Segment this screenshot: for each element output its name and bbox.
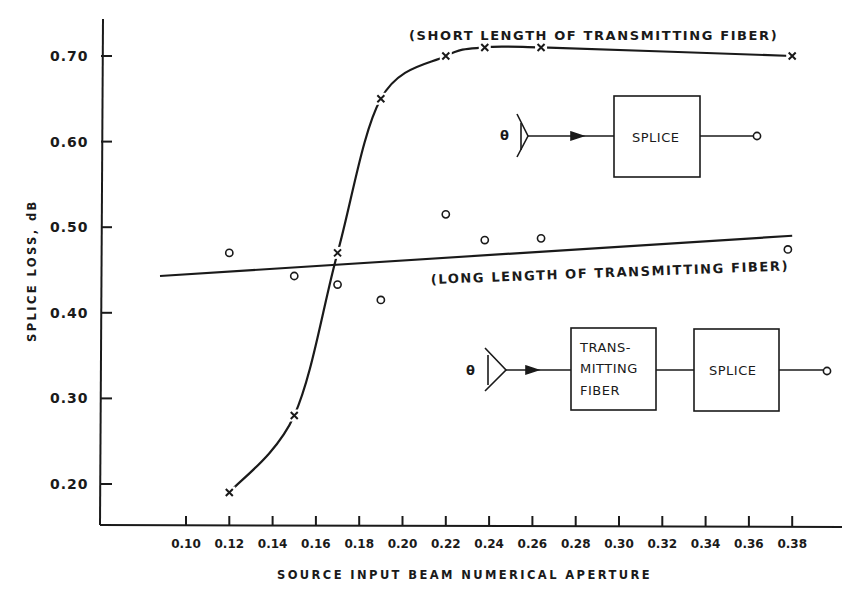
short-fiber-point (786, 50, 798, 62)
long-fiber-point (334, 281, 341, 288)
x-tick-label: 0.36 (734, 537, 764, 551)
y-axis-title: SPLICE LOSS, dB (25, 199, 39, 342)
svg-text:SPLICE: SPLICE (632, 130, 679, 145)
x-tick-label: 0.32 (647, 537, 677, 551)
x-tick-label: 0.26 (518, 537, 548, 551)
x-tick-label: 0.34 (691, 537, 721, 551)
short-fiber-point (288, 410, 300, 422)
long-fiber-point (377, 296, 384, 303)
x-tick-label: 0.16 (301, 537, 331, 551)
short-fiber-label: (SHORT LENGTH OF TRANSMITTING FIBER) (409, 28, 778, 43)
long-fiber-point (481, 236, 488, 243)
x-tick-label: 0.10 (171, 537, 201, 551)
short-fiber-point (375, 93, 387, 105)
y-tick-label: 0.60 (50, 134, 89, 150)
x-tick-label: 0.28 (561, 537, 591, 551)
arrow-icon (526, 366, 538, 374)
x-tick-label: 0.24 (474, 537, 504, 551)
y-tick-label: 0.30 (50, 390, 89, 406)
svg-text:FIBER: FIBER (580, 383, 620, 398)
long-fiber-label: (LONG LENGTH OF TRANSMITTING FIBER) (431, 258, 790, 287)
x-ticks: 0.100.120.140.160.180.200.220.240.260.28… (171, 516, 807, 551)
svg-text:TRANS-: TRANS- (579, 340, 631, 355)
y-tick-label: 0.40 (50, 305, 89, 321)
y-tick-label: 0.70 (50, 48, 89, 64)
arrow-icon (571, 132, 583, 140)
x-tick-label: 0.30 (604, 537, 634, 551)
short-fiber-point (223, 487, 235, 499)
y-axis (100, 19, 103, 525)
x-tick-label: 0.38 (777, 537, 807, 551)
x-tick-label: 0.20 (388, 537, 418, 551)
theta-symbol: θ (500, 128, 509, 143)
long-fiber-point (291, 272, 298, 279)
x-tick-label: 0.14 (258, 537, 288, 551)
svg-text:SPLICE: SPLICE (709, 363, 756, 378)
x-axis-title: SOURCE INPUT BEAM NUMERICAL APERTURE (277, 568, 652, 582)
y-tick-label: 0.20 (50, 476, 89, 492)
diagram-long-fiber: θ TRANS- MITTING FIBER SPLICE (466, 328, 831, 411)
long-fiber-point (442, 211, 449, 218)
diagram-short-fiber: θ SPLICE (500, 96, 761, 177)
splice-loss-chart: 0.200.300.400.500.600.70 0.100.120.140.1… (0, 0, 858, 602)
short-fiber-point (535, 41, 547, 53)
output-terminal-icon (823, 367, 830, 374)
short-fiber-point (479, 41, 491, 53)
output-terminal-icon (753, 132, 760, 139)
x-tick-label: 0.12 (214, 537, 244, 551)
svg-text:MITTING: MITTING (580, 361, 638, 376)
short-fiber-point (440, 50, 452, 62)
short-fiber-point (332, 247, 344, 259)
long-fiber-point (784, 246, 791, 253)
long-fiber-point (226, 249, 233, 256)
theta-symbol: θ (466, 363, 475, 378)
x-tick-label: 0.18 (344, 537, 374, 551)
y-tick-label: 0.50 (50, 219, 89, 235)
long-fiber-point (537, 235, 544, 242)
source-cone-icon (517, 114, 528, 157)
x-tick-label: 0.22 (431, 537, 461, 551)
x-axis (100, 525, 842, 527)
